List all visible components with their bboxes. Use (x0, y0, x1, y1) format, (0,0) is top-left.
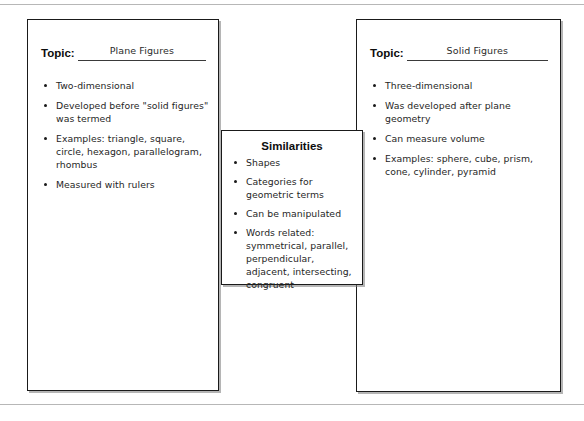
left-topic-field[interactable]: Plane Figures (78, 41, 206, 61)
list-item: Examples: triangle, square, circle, hexa… (43, 132, 210, 171)
left-topic-label: Topic: (41, 47, 75, 61)
right-topic-row: Topic: Solid Figures (370, 41, 548, 61)
left-bullet-list: Two-dimensional Developed before "solid … (43, 79, 210, 191)
list-item: Three-dimensional (372, 79, 552, 92)
list-item: Shapes (233, 156, 355, 169)
right-topic-value: Solid Figures (447, 45, 508, 56)
list-item: Can be manipulated (233, 207, 355, 220)
left-topic-box[interactable]: Topic: Plane Figures Two-dimensional Dev… (27, 19, 219, 391)
similarities-heading: Similarities (222, 140, 362, 152)
similarities-box[interactable]: Similarities Shapes Categories for geome… (221, 130, 363, 285)
list-item: Two-dimensional (43, 79, 210, 92)
bottom-page-rule (0, 404, 584, 405)
list-item: Examples: sphere, cube, prism, cone, cyl… (372, 152, 552, 178)
similarities-bullet-list: Shapes Categories for geometric terms Ca… (233, 156, 355, 291)
right-topic-label: Topic: (370, 47, 404, 61)
left-topic-value: Plane Figures (110, 45, 174, 56)
right-bullet-list: Three-dimensional Was developed after pl… (372, 79, 552, 178)
worksheet-page: Topic: Plane Figures Two-dimensional Dev… (0, 0, 584, 421)
list-item: Categories for geometric terms (233, 175, 355, 201)
list-item: Was developed after plane geometry (372, 99, 552, 125)
list-item: Can measure volume (372, 132, 552, 145)
left-topic-row: Topic: Plane Figures (41, 41, 206, 61)
list-item: Developed before "solid figures" was ter… (43, 99, 210, 125)
list-item: Words related: symmetrical, parallel, pe… (233, 226, 355, 291)
list-item: Measured with rulers (43, 178, 210, 191)
right-topic-field[interactable]: Solid Figures (407, 41, 548, 61)
top-page-rule (0, 4, 584, 5)
right-topic-box[interactable]: Topic: Solid Figures Three-dimensional W… (356, 19, 561, 392)
